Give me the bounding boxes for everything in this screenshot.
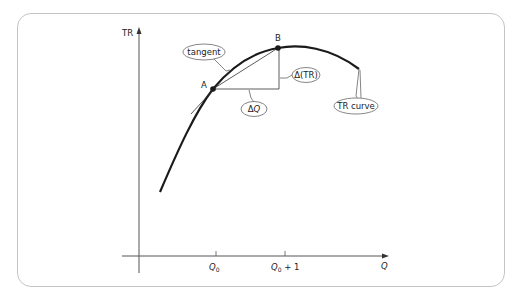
x-tick-label-q0-plus-1: Q0 + 1: [271, 262, 299, 273]
x-axis-label: Q: [381, 261, 388, 271]
x-axis-arrow-icon: [382, 254, 389, 259]
callout-tr-curve-text: TR curve: [336, 101, 375, 111]
callout-tr-curve: TR curve: [334, 69, 378, 114]
point-a: [210, 86, 216, 92]
axes: [122, 27, 389, 273]
callout-delta-tr: Δ(TR): [280, 68, 320, 83]
callout-tangent: tangent: [183, 44, 230, 71]
point-b: [275, 45, 281, 51]
callout-tangent-text: tangent: [187, 47, 221, 57]
point-a-label: A: [201, 80, 207, 90]
callout-delta-q: ΔQ: [241, 90, 267, 117]
callout-delta-q-text: ΔQ: [248, 104, 261, 114]
callout-delta-tr-text: Δ(TR): [294, 70, 318, 80]
tr-diagram: TR Q Q0 Q0 + 1 A B tangent Δ(TR) ΔQ TR c…: [0, 0, 519, 300]
point-b-label: B: [275, 33, 281, 43]
tr-curve: [160, 46, 359, 192]
y-axis-arrow-icon: [137, 27, 142, 34]
y-axis-label: TR: [121, 28, 133, 38]
x-tick-label-q0: Q0: [209, 262, 220, 273]
